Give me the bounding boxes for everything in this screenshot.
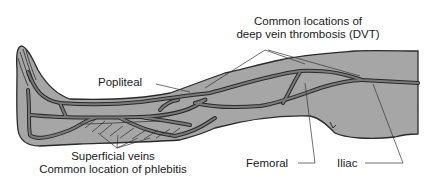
dvt-label-line2: deep vein thrombosis (DVT) bbox=[228, 28, 388, 41]
dvt-label-line1: Common locations of bbox=[228, 15, 388, 28]
iliac-label: Iliac bbox=[337, 157, 357, 170]
leg-outline bbox=[17, 46, 418, 146]
superficial-veins-label: Superficial veins Common location of phl… bbox=[28, 150, 198, 176]
femoral-label: Femoral bbox=[246, 157, 288, 170]
superficial-label-line1: Superficial veins bbox=[28, 150, 198, 163]
superficial-label-line2: Common location of phlebitis bbox=[28, 163, 198, 176]
leg-vein-diagram: Common locations of deep vein thrombosis… bbox=[0, 0, 433, 192]
popliteal-label: Popliteal bbox=[98, 76, 142, 89]
dvt-label: Common locations of deep vein thrombosis… bbox=[228, 15, 388, 41]
